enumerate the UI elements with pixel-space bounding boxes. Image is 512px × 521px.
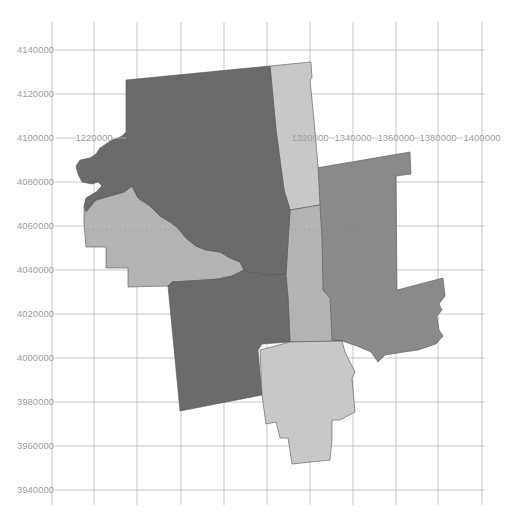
x-tick-label: 1380000 <box>420 132 457 143</box>
y-tick-label: 4100000 <box>17 132 54 143</box>
y-tick-label: 4140000 <box>17 44 54 55</box>
map-canvas: 4140000 4120000 4100000 4080000 4060000 … <box>0 0 512 521</box>
y-tick-label: 4040000 <box>17 264 54 275</box>
y-tick-label: 4120000 <box>17 88 54 99</box>
x-tick-label: 1400000 <box>464 132 501 143</box>
y-axis-labels: 4140000 4120000 4100000 4080000 4060000 … <box>17 44 54 495</box>
x-tick-label: 1360000 <box>378 132 415 143</box>
x-tick-label: 1340000 <box>335 132 372 143</box>
south-region[interactable] <box>260 341 355 464</box>
y-tick-label: 4060000 <box>17 220 54 231</box>
y-tick-label: 3980000 <box>17 396 54 407</box>
y-tick-label: 3960000 <box>17 440 54 451</box>
map-regions <box>76 62 445 464</box>
y-tick-label: 4000000 <box>17 352 54 363</box>
x-tick-label: 1220000 <box>76 132 113 143</box>
y-tick-label: 4020000 <box>17 308 54 319</box>
east-region[interactable] <box>316 152 445 362</box>
y-tick-label: 4080000 <box>17 176 54 187</box>
x-tick-label: 1320000 <box>292 132 329 143</box>
y-tick-label: 3940000 <box>17 484 54 495</box>
